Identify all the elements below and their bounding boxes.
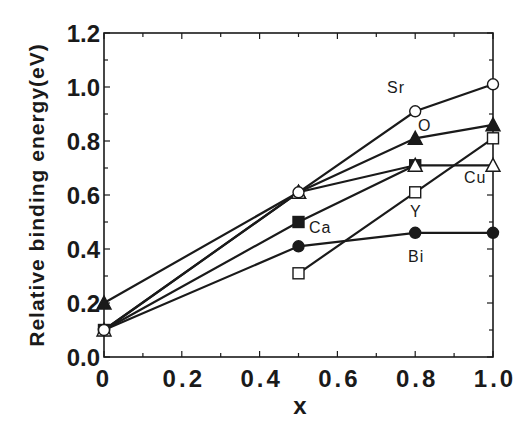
y-tick-label: 0.8 — [67, 128, 100, 155]
series-line-ca — [104, 165, 415, 330]
x-axis: 00.20.40.60.81.0 — [96, 33, 516, 392]
series-line-y — [299, 138, 494, 273]
series-label-bi: Bi — [408, 248, 424, 265]
series-label-o: O — [418, 117, 431, 134]
x-tick-label: 0 — [96, 365, 112, 392]
marker-bi-icon — [293, 241, 304, 252]
marker-sr-icon — [488, 79, 499, 90]
marker-bi-icon — [488, 227, 499, 238]
binding-energy-chart: 0.00.20.40.60.81.01.2 00.20.40.60.81.0 S… — [0, 0, 529, 438]
series-lines — [104, 84, 493, 330]
marker-sr-icon — [99, 325, 110, 336]
series-line-sr — [104, 84, 493, 330]
y-tick-label: 1.2 — [67, 20, 100, 47]
marker-o-icon — [486, 118, 500, 131]
x-tick-label: 0.6 — [318, 365, 360, 392]
x-tick-label: 0.2 — [163, 365, 205, 392]
marker-y-icon — [293, 268, 304, 279]
x-tick-label: 0.8 — [396, 365, 438, 392]
y-axis-title: Relative binding energy(eV) — [25, 43, 48, 347]
series-markers — [97, 79, 500, 336]
marker-bi-icon — [410, 227, 421, 238]
marker-ca-icon — [293, 217, 304, 228]
series-label-y: Y — [410, 203, 422, 220]
series-label-sr: Sr — [387, 79, 405, 96]
marker-sr-icon — [293, 187, 304, 198]
x-tick-label: 1.0 — [474, 365, 516, 392]
series-label-cu: Cu — [464, 169, 486, 186]
marker-sr-icon — [410, 106, 421, 117]
series-labels: SrOCuCaYBi — [309, 79, 486, 265]
y-tick-label: 0.4 — [67, 236, 101, 263]
y-tick-label: 1.0 — [67, 74, 100, 101]
marker-y-icon — [488, 133, 499, 144]
series-label-ca: Ca — [309, 219, 331, 236]
y-tick-label: 0.2 — [67, 290, 100, 317]
marker-y-icon — [410, 187, 421, 198]
x-tick-label: 0.4 — [240, 365, 282, 392]
y-tick-label: 0.6 — [67, 182, 100, 209]
x-axis-title: x — [293, 392, 307, 419]
